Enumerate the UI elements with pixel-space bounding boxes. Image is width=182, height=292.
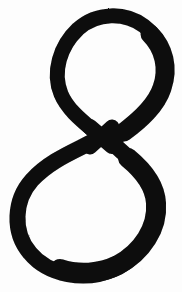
figure-eight-glyph <box>0 0 182 292</box>
image-canvas: Hand-drawn black figure-eight glyph on w… <box>0 0 182 292</box>
